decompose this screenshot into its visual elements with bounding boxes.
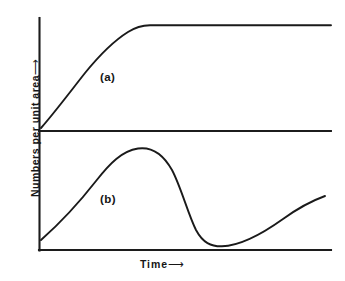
- y-axis-label: Numbers per unit area⟶: [29, 33, 41, 223]
- curve-a-path: [41, 25, 331, 128]
- y-axis-arrow-icon: ⟶: [29, 59, 41, 75]
- x-axis-label-text: Time: [140, 258, 168, 270]
- y-axis-label-text: Numbers per unit area: [29, 75, 41, 197]
- panel-label-a: (a): [100, 71, 115, 83]
- chart-plot-area: [0, 0, 345, 281]
- curve-b-path: [41, 148, 325, 246]
- figure-container: (a) (b) Time⟶ Numbers per unit area⟶: [0, 0, 345, 281]
- x-axis-arrow-icon: ⟶: [168, 258, 184, 270]
- x-axis-label: Time⟶: [140, 258, 260, 270]
- panel-label-b: (b): [100, 193, 116, 205]
